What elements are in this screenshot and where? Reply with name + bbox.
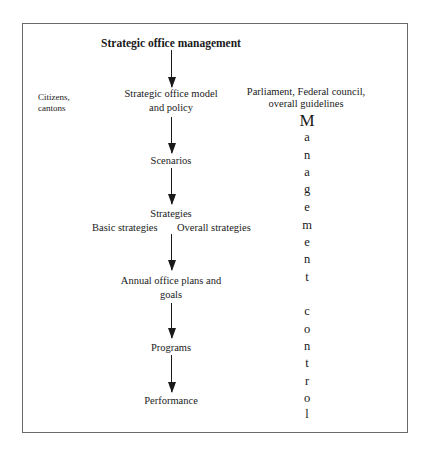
vertical-letter: o: [304, 323, 310, 336]
vertical-letter: m: [302, 219, 312, 232]
arrow-down-icon: [171, 117, 172, 153]
vertical-letter: n: [304, 149, 310, 162]
node-annual-plans-line2: goals: [160, 290, 182, 301]
parliament-label-line2: overall guidelines: [269, 99, 344, 110]
vertical-letter: o: [304, 392, 310, 405]
vertical-letter: e: [304, 236, 310, 249]
vertical-letter: t: [305, 271, 308, 284]
vertical-letter: n: [304, 253, 310, 266]
vertical-letter: M: [299, 112, 314, 129]
basic-strategies-label: Basic strategies: [92, 223, 158, 234]
citizens-label: Citizens,: [38, 93, 70, 102]
cantons-label: cantons: [38, 104, 66, 113]
node-strategic-model-line1: Strategic office model: [124, 89, 217, 100]
vertical-letter: c: [304, 305, 310, 318]
node-strategies: Strategies: [150, 209, 191, 220]
vertical-letter: t: [305, 357, 308, 370]
node-strategic-model-line2: and policy: [149, 103, 193, 114]
vertical-letter: a: [304, 131, 310, 144]
vertical-letter: g: [304, 183, 310, 196]
parliament-label-line1: Parliament, Federal council,: [247, 87, 365, 98]
vertical-letter: e: [304, 201, 310, 214]
node-scenarios: Scenarios: [151, 156, 192, 167]
diagram-title: Strategic office management: [101, 38, 241, 50]
vertical-letter: l: [305, 408, 308, 421]
node-performance: Performance: [144, 396, 198, 407]
node-programs: Programs: [151, 343, 191, 354]
arrow-down-icon: [171, 234, 172, 270]
node-annual-plans-line1: Annual office plans and: [121, 276, 221, 287]
arrow-down-icon: [171, 355, 172, 392]
overall-strategies-label: Overall strategies: [177, 223, 251, 234]
arrow-down-icon: [171, 303, 172, 338]
arrow-down-icon: [171, 168, 172, 204]
vertical-letter: n: [304, 340, 310, 353]
arrow-down-icon: [171, 50, 172, 87]
vertical-letter: r: [305, 375, 309, 388]
vertical-letter: a: [304, 166, 310, 179]
